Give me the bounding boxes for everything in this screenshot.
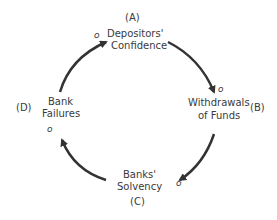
node-c-label-line1: Banks' xyxy=(123,169,156,181)
node-b-tag: (B) xyxy=(250,102,265,114)
polarity-c-to-d: o xyxy=(47,124,53,134)
node-d-label-line1: Bank xyxy=(48,96,73,108)
node-a-label-line2: Confidence xyxy=(111,40,167,52)
arrow-d-to-a xyxy=(60,42,106,92)
arrow-b-to-c xyxy=(180,134,214,180)
node-d-label-line2: Failures xyxy=(42,108,80,120)
polarity-a-to-b: o xyxy=(218,84,224,94)
polarity-b-to-c: o xyxy=(176,178,182,188)
polarity-d-to-a: o xyxy=(94,30,100,40)
arrow-a-to-b xyxy=(168,42,214,92)
node-b-label-line1: Withdrawals xyxy=(188,97,250,109)
arrow-c-to-d xyxy=(62,140,106,180)
node-b-label-line2: of Funds xyxy=(198,110,240,122)
node-c-label-line2: Solvency xyxy=(117,181,162,193)
node-c-tag: (C) xyxy=(130,196,145,208)
node-a-label-line1: Depositors' xyxy=(107,28,163,40)
node-d-tag: (D) xyxy=(16,102,32,114)
node-a-tag: (A) xyxy=(125,12,140,24)
